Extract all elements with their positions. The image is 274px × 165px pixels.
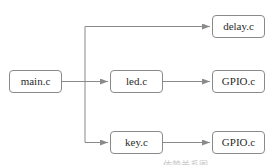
node-gpio-c-1: GPIO.c	[212, 70, 265, 93]
node-gpio-c-2: GPIO.c	[212, 131, 265, 154]
figure-caption: 依赖关系图	[150, 158, 220, 165]
node-main-c: main.c	[9, 70, 62, 93]
node-key-c: key.c	[110, 131, 163, 154]
node-delay-c: delay.c	[212, 15, 265, 38]
node-led-c: led.c	[110, 70, 163, 93]
